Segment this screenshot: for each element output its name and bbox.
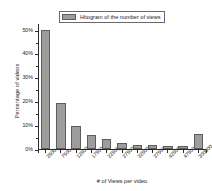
y-tick-label: 40%	[22, 50, 33, 56]
plot-area: 0%10%20%30%40%50% 2500750012500175002250…	[38, 24, 206, 150]
y-minor-tick	[36, 114, 38, 115]
bar	[194, 134, 203, 149]
y-tick-label: 10%	[22, 122, 33, 128]
x-axis-title: # of Views per video	[38, 178, 206, 184]
bar	[56, 103, 65, 149]
y-minor-tick	[36, 90, 38, 91]
y-tick: 20%	[35, 102, 38, 103]
x-tick	[206, 150, 207, 153]
y-axis-line	[38, 24, 39, 150]
y-minor-tick	[36, 43, 38, 44]
y-tick: 50%	[35, 31, 38, 32]
y-tick-label: 0%	[25, 146, 33, 152]
y-tick: 10%	[35, 126, 38, 127]
x-tick	[38, 150, 39, 153]
y-minor-tick	[36, 138, 38, 139]
bar	[133, 145, 142, 149]
bar	[87, 135, 96, 149]
bar	[71, 126, 80, 149]
y-tick: 40%	[35, 54, 38, 55]
bar	[163, 146, 172, 149]
legend-swatch-icon	[62, 14, 76, 20]
bar	[117, 143, 126, 149]
bar	[148, 145, 157, 149]
bar	[41, 30, 50, 149]
chart-figure: Percentage of videos 0%10%20%30%40%50% 2…	[0, 0, 212, 191]
y-tick-label: 20%	[22, 98, 33, 104]
y-tick-label: 30%	[22, 74, 33, 80]
y-axis-title: Percentage of videos	[14, 36, 20, 146]
y-minor-tick	[36, 66, 38, 67]
y-tick-label: 50%	[22, 27, 33, 33]
legend-label: Hitogram of the number of views	[80, 14, 161, 20]
y-tick: 30%	[35, 78, 38, 79]
bar	[178, 146, 187, 149]
bar	[102, 139, 111, 149]
chart-legend: Hitogram of the number of views	[59, 11, 165, 23]
